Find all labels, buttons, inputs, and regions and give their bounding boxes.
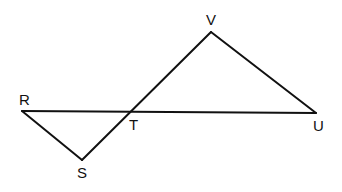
segment-SV <box>82 32 211 160</box>
label-T: T <box>129 116 138 133</box>
geometry-diagram: R S T V U <box>0 0 342 192</box>
label-R: R <box>19 91 30 108</box>
segment-RU <box>22 111 316 113</box>
segment-RS <box>22 111 82 160</box>
label-V: V <box>206 11 216 28</box>
label-S: S <box>77 164 87 181</box>
label-U: U <box>313 117 324 134</box>
segment-VU <box>211 32 316 113</box>
